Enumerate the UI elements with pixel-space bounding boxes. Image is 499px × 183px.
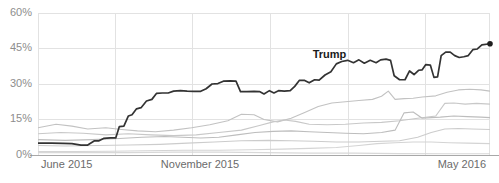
series-line-series-6 — [38, 142, 490, 151]
y-tick-label: 0% — [16, 148, 32, 160]
series-line-series-5 — [38, 128, 490, 146]
x-tick-label: November 2015 — [161, 158, 239, 170]
gridlines — [38, 13, 490, 155]
series-line-Trump — [38, 44, 490, 145]
endpoint-markers — [487, 41, 493, 47]
series-line-series-2 — [38, 89, 490, 132]
y-tick-label: 60% — [10, 6, 32, 18]
series-line-series-7 — [38, 152, 490, 154]
endpoint-dot-Trump — [487, 41, 493, 47]
y-axis-ticks: 0%15%30%45%60% — [10, 6, 32, 160]
line-chart: 0%15%30%45%60% June 2015November 2015May… — [0, 0, 499, 183]
series-annotation-label: Trump — [313, 48, 347, 60]
y-tick-label: 45% — [10, 41, 32, 53]
chart-screenshot: 0%15%30%45%60% June 2015November 2015May… — [0, 0, 499, 183]
series-annotations: Trump — [313, 48, 347, 60]
x-tick-label: June 2015 — [41, 158, 92, 170]
series-layer — [38, 44, 490, 154]
y-tick-label: 15% — [10, 112, 32, 124]
y-tick-label: 30% — [10, 77, 32, 89]
x-axis-ticks: June 2015November 2015May 2016 — [41, 158, 486, 170]
x-tick-label: May 2016 — [438, 158, 486, 170]
